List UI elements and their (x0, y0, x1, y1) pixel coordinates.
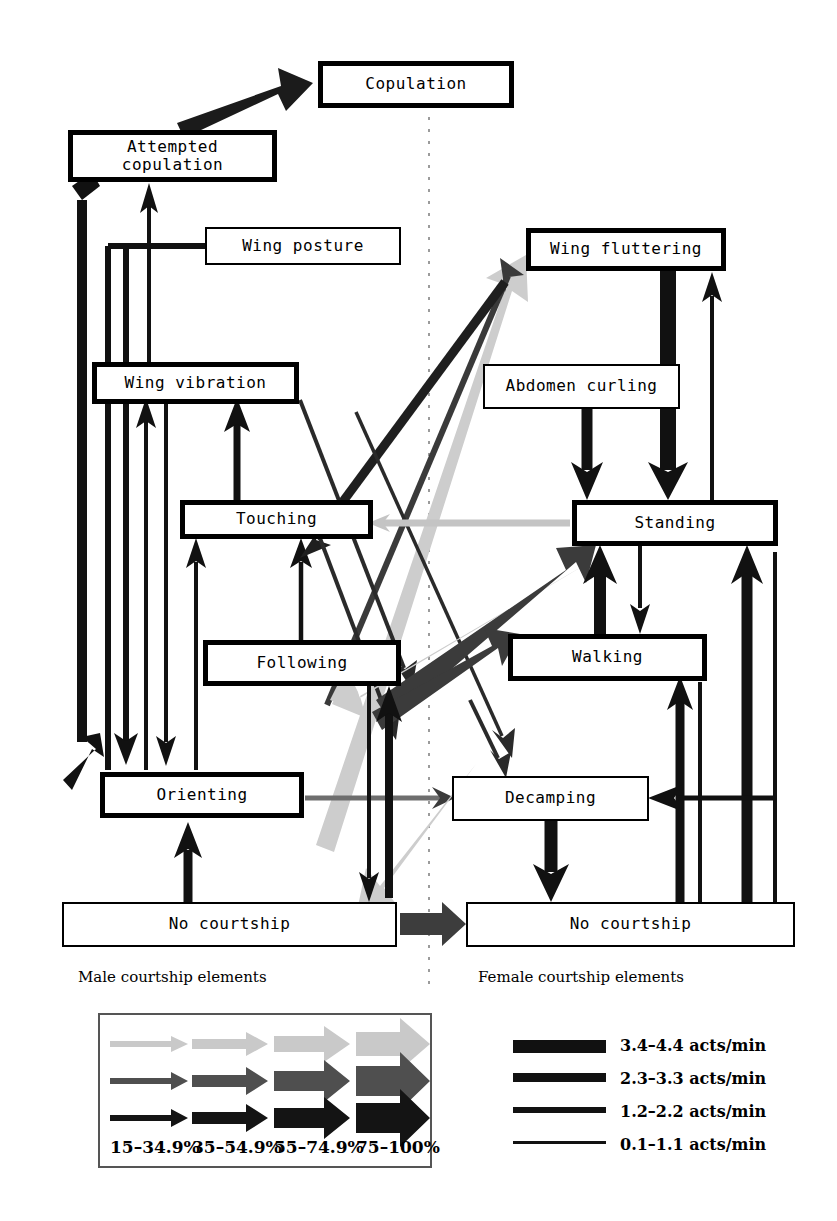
legend-percent-label-2: 35–54.9% (192, 1137, 282, 1157)
node-orienting-label: Orienting (156, 786, 247, 804)
node-no-courtship-female-label: No courtship (570, 915, 692, 933)
legend-rate-label-3: 1.2–2.2 acts/min (620, 1102, 766, 1121)
node-orienting[interactable]: Orienting (100, 772, 304, 818)
node-following[interactable]: Following (203, 640, 401, 686)
node-walking-label: Walking (572, 648, 643, 666)
node-decamping-label: Decamping (505, 789, 596, 807)
arrow-nocourtship-male-to-female (400, 902, 466, 946)
arrow-wingvibration-to-attempted (140, 183, 158, 362)
node-decamping[interactable]: Decamping (452, 776, 649, 821)
node-no-courtship-female[interactable]: No courtship (466, 902, 795, 947)
node-no-courtship-male[interactable]: No courtship (62, 902, 397, 947)
node-copulation-label: Copulation (365, 75, 466, 93)
arrow-right-to-decamping (648, 784, 775, 812)
node-standing[interactable]: Standing (572, 500, 778, 546)
arrow-standing-to-wingfluttering (702, 272, 722, 500)
arrow-orienting-to-attempted (63, 172, 104, 790)
legend-rate-label-1: 3.4–4.4 acts/min (620, 1036, 766, 1055)
legend-rate-label-4: 0.1–1.1 acts/min (620, 1135, 766, 1154)
legend-percent-label-3: 55–74.9% (274, 1137, 364, 1157)
node-wing-vibration-label: Wing vibration (125, 374, 267, 392)
node-wing-fluttering[interactable]: Wing fluttering (526, 228, 726, 271)
node-abdomen-curling-label: Abdomen curling (506, 377, 658, 395)
node-touching-label: Touching (236, 510, 317, 528)
arrow-decamping-to-nocourtshipfemale (533, 820, 569, 902)
legend-percent-label-4: 75–100% (356, 1137, 440, 1157)
node-standing-label: Standing (634, 514, 715, 532)
arrow-orienting-to-decamping-light (305, 787, 455, 809)
arrow-abdomencurling-to-standing (571, 408, 603, 500)
arrow-standing-to-walking (630, 545, 650, 634)
caption-male-elements: Male courtship elements (78, 968, 267, 986)
node-attempted-copulation-label: Attempted copulation (122, 138, 223, 175)
arrow-orienting-to-wingfluttering-light (316, 255, 528, 852)
node-copulation[interactable]: Copulation (318, 61, 514, 108)
arrow-nocourtship-to-orienting (174, 822, 202, 902)
node-wing-posture[interactable]: Wing posture (205, 227, 401, 265)
caption-female-elements: Female courtship elements (478, 968, 684, 986)
diagram-canvas: Copulation Attempted copulation Wing pos… (0, 0, 837, 1221)
arrow-wingvibration-to-orienting (156, 404, 176, 766)
node-wing-vibration[interactable]: Wing vibration (92, 362, 299, 404)
arrow-touching-to-wingvibration (224, 398, 250, 500)
node-attempted-copulation[interactable]: Attempted copulation (68, 130, 277, 182)
node-following-label: Following (256, 654, 347, 672)
node-no-courtship-male-label: No courtship (169, 915, 291, 933)
node-walking[interactable]: Walking (508, 634, 707, 681)
arrow-nocourtshipfemale-to-standing (731, 545, 763, 902)
node-wing-posture-label: Wing posture (242, 237, 364, 255)
arrow-attempted-to-orienting (114, 246, 138, 765)
node-touching[interactable]: Touching (180, 500, 373, 539)
node-wing-fluttering-label: Wing fluttering (550, 240, 702, 258)
node-abdomen-curling[interactable]: Abdomen curling (483, 364, 680, 409)
arrow-orienting-to-wingvibration (136, 398, 156, 770)
arrow-attempted-to-copulation (177, 68, 313, 138)
legend-rate-label-2: 2.3–3.3 acts/min (620, 1069, 766, 1088)
legend-percent-label-1: 15–34.9% (110, 1137, 200, 1157)
